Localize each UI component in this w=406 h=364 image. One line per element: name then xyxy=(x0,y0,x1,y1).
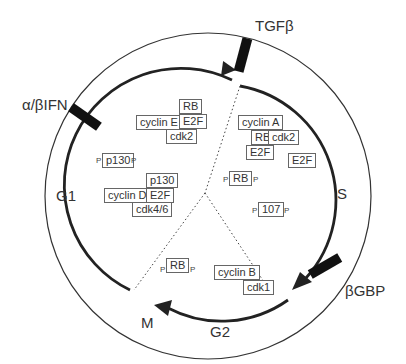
tgfb-block xyxy=(234,37,252,72)
cdk2-box: cdk2 xyxy=(268,130,299,145)
phosphate-right: P xyxy=(190,266,195,274)
p130-box: p130 xyxy=(102,153,134,168)
outer-cycle-circle xyxy=(45,33,371,359)
cyclin-b-box: cyclin B xyxy=(214,265,260,280)
bgbp-label: βGBP xyxy=(345,283,385,298)
cyclin-a-box: cyclin A xyxy=(238,115,283,130)
ifn-block xyxy=(68,103,102,131)
cdk46-box: cdk4/6 xyxy=(132,202,172,217)
cyclin-d-box: cyclin D xyxy=(104,188,151,203)
g2-label: G2 xyxy=(210,324,230,339)
phosphate-left: P xyxy=(96,157,101,165)
phosphate-left: P xyxy=(252,207,257,215)
g2-arc xyxy=(168,300,288,321)
p130-box: p130 xyxy=(146,173,178,188)
p107-box: 107 xyxy=(258,202,284,217)
g1-label: G1 xyxy=(56,188,76,203)
cyclin-e-box: cyclin E xyxy=(136,115,182,130)
phosphate-left: P xyxy=(160,266,165,274)
rb-box: RB xyxy=(166,258,189,273)
rb-box: RB xyxy=(179,99,202,114)
bgbp-block xyxy=(308,253,342,279)
tgfb-label: TGFβ xyxy=(255,18,294,33)
e2f-box: E2F xyxy=(179,114,207,129)
free-e2f-box: E2F xyxy=(288,153,316,168)
rb-box: RB xyxy=(229,171,252,186)
m-label: M xyxy=(141,315,154,330)
e2f-box: E2F xyxy=(246,145,274,160)
cdk1-box: cdk1 xyxy=(243,280,274,295)
phosphate-left: P xyxy=(223,176,228,184)
phosphate-right: P xyxy=(253,176,258,184)
e2f-box: E2F xyxy=(146,188,174,203)
cell-cycle-diagram xyxy=(0,0,406,364)
ifn-label: α/βIFN xyxy=(22,97,68,112)
g2-arrowhead xyxy=(154,300,172,316)
s-label: S xyxy=(337,186,347,201)
phosphate-right: P xyxy=(131,157,136,165)
phosphate-right: P xyxy=(284,207,289,215)
cdk2-box: cdk2 xyxy=(166,129,197,144)
